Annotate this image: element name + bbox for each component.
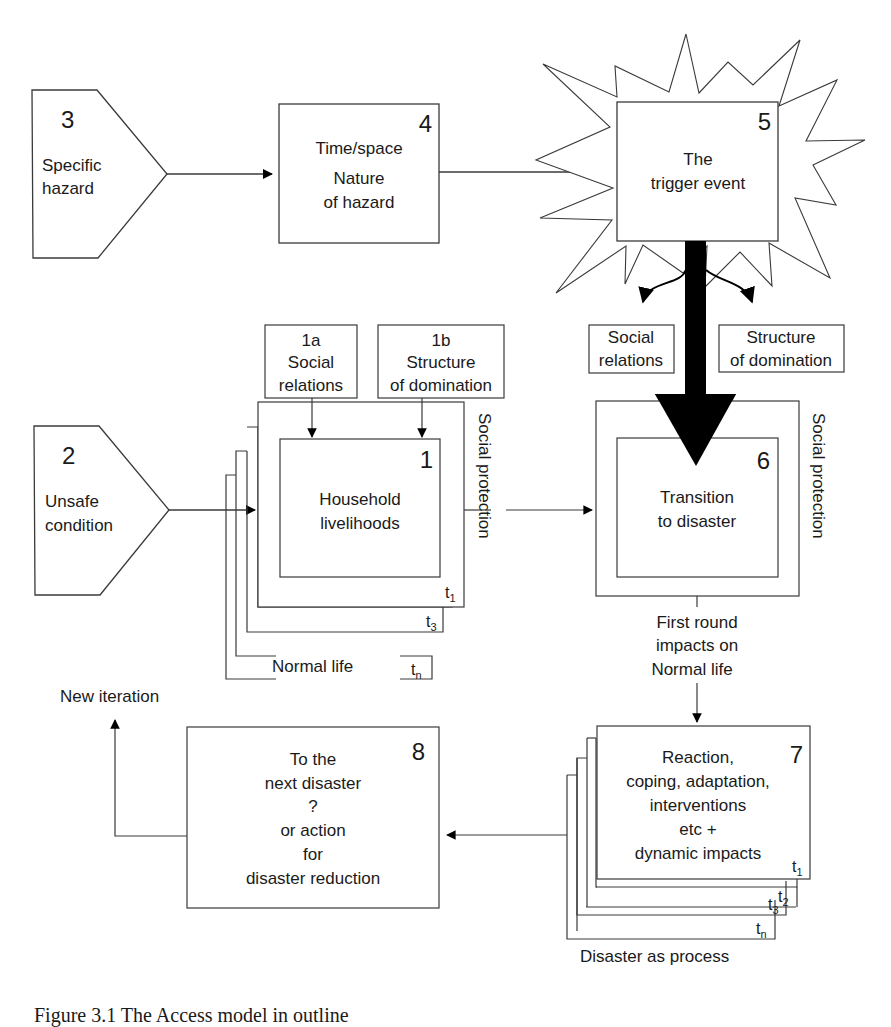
node-8-number: 8	[412, 738, 425, 765]
node-1a-line2: Social	[288, 353, 334, 372]
node-7-stack: tn t3 t2 t1 7 Reaction, coping, adaptati…	[567, 726, 810, 966]
node-8-next-disaster: 8 To the next disaster ? or action for d…	[187, 727, 439, 908]
node-7-label-line3: interventions	[650, 796, 746, 815]
first-round-impacts-label: First round impacts on Normal life	[651, 613, 738, 679]
social-relations-line2: relations	[599, 351, 663, 370]
node-8-label-line1: To the	[290, 750, 336, 769]
node-2-number: 2	[62, 442, 75, 469]
node-4-label-line1: Time/space	[315, 139, 402, 158]
first-round-line1: First round	[656, 613, 737, 632]
figure-caption: Figure 3.1 The Access model in outline	[34, 1004, 349, 1027]
structure-domination-line1: Structure	[747, 328, 816, 347]
node-5-label-line1: The	[683, 150, 712, 169]
node-7-tn: tn	[756, 920, 767, 940]
node-4-time-space: 4 Time/space Nature of hazard	[279, 104, 439, 243]
node-1-label-line2: livelihoods	[320, 514, 399, 533]
node-3-label-line1: Specific	[42, 156, 102, 175]
node-2-label-line1: Unsafe	[45, 492, 99, 511]
structure-domination-line2: of domination	[730, 351, 832, 370]
node-5-number: 5	[758, 108, 771, 135]
node-7-label-line2: coping, adaptation,	[626, 772, 770, 791]
node-4-label-line2: Nature	[333, 169, 384, 188]
curved-arrow-structure-domination	[706, 270, 752, 302]
node-8-label-line4: or action	[280, 821, 345, 840]
node-8-label-line5: for	[303, 845, 323, 864]
node-7-t3: t3	[768, 896, 779, 916]
node-1-social-protection: Social protection	[475, 413, 494, 539]
arrow-new-iteration	[115, 720, 187, 836]
node-4-label-line3: of hazard	[324, 193, 395, 212]
node-7-t2: t2	[778, 888, 789, 908]
node-6-label-line1: Transition	[660, 488, 734, 507]
node-1a-social-relations: 1a Social relations	[265, 325, 357, 398]
node-5-label-line2: trigger event	[651, 174, 746, 193]
node-7-number: 7	[790, 741, 803, 768]
node-3-label-line2: hazard	[42, 179, 94, 198]
node-1-number: 1	[420, 446, 433, 473]
normal-life-label: Normal life	[272, 657, 353, 676]
curved-arrow-social-relations	[643, 270, 686, 302]
first-round-line2: impacts on	[656, 636, 738, 655]
node-7-label-line1: Reaction,	[662, 748, 734, 767]
node-6-label-line2: to disaster	[658, 512, 737, 531]
node-1b-structure-domination: 1b Structure of domination	[378, 325, 504, 398]
node-8-label-line6: disaster reduction	[246, 869, 380, 888]
node-1b-line1: 1b	[432, 331, 451, 350]
node-8-label-line2: next disaster	[265, 774, 362, 793]
node-3-specific-hazard: 3 Specific hazard	[32, 90, 167, 258]
node-8-label-line3: ?	[308, 797, 317, 816]
node-7-label-line5: dynamic impacts	[635, 844, 762, 863]
node-6-social-protection: Social protection	[809, 413, 828, 539]
node-1b-line2: Structure	[407, 353, 476, 372]
node-3-number: 3	[61, 106, 74, 133]
node-1-t3: t3	[426, 613, 437, 633]
box-social-relations-right: Social relations	[589, 325, 674, 373]
node-6-transition: 6 Transition to disaster Social protecti…	[596, 394, 828, 596]
node-7-label-line4: etc +	[679, 820, 716, 839]
node-1a-line3: relations	[279, 376, 343, 395]
node-1a-line1: 1a	[302, 331, 321, 350]
node-6-number: 6	[757, 447, 770, 474]
first-round-line3: Normal life	[651, 660, 732, 679]
node-1b-line3: of domination	[390, 376, 492, 395]
node-4-number: 4	[419, 110, 432, 137]
social-relations-line1: Social	[608, 328, 654, 347]
box-structure-domination-right: Structure of domination	[719, 325, 844, 372]
node-2-unsafe-condition: 2 Unsafe condition	[34, 426, 169, 595]
node-2-label-line2: condition	[45, 516, 113, 535]
node-1-stack: tn Normal life t3 t2 t1 1 Household live…	[226, 402, 494, 681]
new-iteration-label: New iteration	[60, 687, 159, 706]
node-1-label-line1: Household	[319, 490, 400, 509]
disaster-as-process-label: Disaster as process	[580, 947, 729, 966]
node-1-tn: tn	[411, 661, 422, 681]
